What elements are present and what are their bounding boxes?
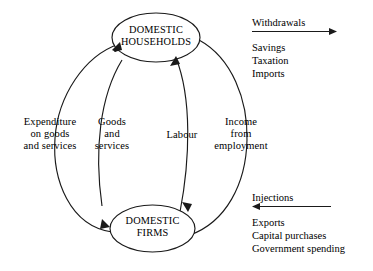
injections-items: ExportsCapital purchasesGovernment spend… — [252, 216, 345, 255]
node-households-label: DOMESTICHOUSEHOLDS — [112, 24, 200, 48]
arrowhead-goods — [100, 219, 110, 229]
arrowhead-injections — [252, 203, 260, 210]
flow-label-labour: Labour — [160, 129, 204, 141]
flow-label-goods: Goods and services — [88, 116, 136, 151]
withdrawals-item-0: Savings — [252, 42, 285, 53]
arrowhead-withdrawals — [329, 28, 337, 35]
node-firms-label: DOMESTICFIRMS — [110, 215, 195, 239]
withdrawals-item-1: Taxation — [252, 55, 289, 66]
arrowhead-income — [182, 202, 192, 212]
injections-item-1: Capital purchases — [252, 230, 326, 241]
circular-flow-diagram: DOMESTICHOUSEHOLDS DOMESTICFIRMS Expendi… — [0, 0, 373, 271]
node-households-line1: DOMESTIC — [129, 24, 183, 35]
withdrawals-item-2: Imports — [252, 68, 285, 79]
node-firms-line2: FIRMS — [137, 227, 169, 238]
injections-heading: Injections — [252, 192, 293, 203]
node-firms-line1: DOMESTIC — [126, 215, 180, 226]
withdrawals-heading: Withdrawals — [252, 17, 305, 28]
flow-label-income: Income from employment — [207, 116, 275, 151]
withdrawals-items: SavingsTaxationImports — [252, 41, 289, 80]
node-households-line2: HOUSEHOLDS — [121, 36, 191, 47]
flow-label-expenditure: Expenditure on goods and services — [10, 116, 90, 151]
injections-item-2: Government spending — [252, 243, 345, 254]
injections-item-0: Exports — [252, 217, 285, 228]
